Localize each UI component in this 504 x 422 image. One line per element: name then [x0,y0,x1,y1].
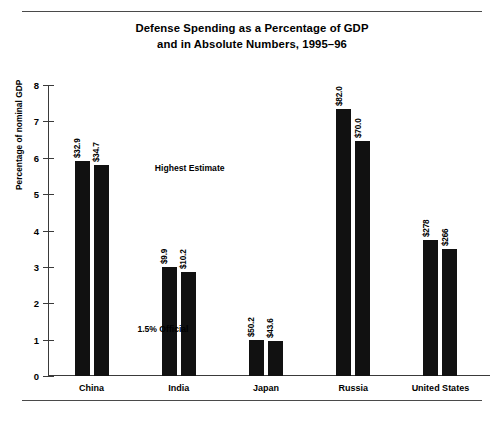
bar-value-label: $9.9 [160,249,169,264]
bar-slot: $43.6 [268,341,283,376]
y-tick-label-5: 5 [34,189,39,200]
category-label-russia: Russia [310,383,397,393]
bar-slot: $82.0 [336,109,351,376]
chart-title-line-2: and in Absolute Numbers, 1995–96 [0,36,504,52]
y-tick-label-0: 0 [34,371,39,382]
bar-value-label: $82.0 [335,86,344,106]
chart-title: Defense Spending as a Percentage of GDP … [0,20,504,52]
y-axis-title: Percentage of nominal GDP [14,80,24,190]
bar[interactable]: $50.2 [249,340,264,376]
top-divider-rule [22,11,482,12]
bar-slot: $34.7 [94,165,109,376]
bar-value-label: $43.6 [266,319,275,339]
y-tick-0 [43,376,54,377]
bars: $82.0$70.0 [310,85,397,376]
bar-slot: $266 [442,249,457,376]
plot-area: 012345678 $32.9$34.7China$9.9$10.2India$… [48,85,484,376]
y-tick-label-1: 1 [34,334,39,345]
bar-value-label: $278 [422,219,431,236]
y-tick-label-3: 3 [34,261,39,272]
chart-title-line-1: Defense Spending as a Percentage of GDP [0,20,504,36]
y-tick-label-7: 7 [34,116,39,127]
category-label-united-states: United States [397,383,484,393]
bar-value-label: $32.9 [73,139,82,159]
bar-slot: $50.2 [249,340,264,376]
annotation-highest-estimate: Highest Estimate [155,163,225,173]
bar[interactable]: $266 [442,249,457,376]
bottom-divider-rule [22,400,482,401]
bars: $32.9$34.7 [48,85,135,376]
bar-group-japan: $50.2$43.6Japan [222,85,309,376]
y-tick-label-8: 8 [34,80,39,91]
bar-group-china: $32.9$34.7China [48,85,135,376]
bar-value-label: $34.7 [92,143,101,163]
bar[interactable]: $82.0 [336,109,351,376]
y-tick-label-2: 2 [34,298,39,309]
bar[interactable]: $34.7 [94,165,109,376]
bar-value-label: $266 [441,228,450,245]
bar-group-russia: $82.0$70.0Russia [310,85,397,376]
bar[interactable]: $70.0 [355,141,370,376]
bar-value-label: $70.0 [354,119,363,139]
bars: $50.2$43.6 [222,85,309,376]
annotation-1-5-official: 1.5% Official [137,324,188,334]
bar-slot: $9.9 [162,267,177,376]
category-label-japan: Japan [222,383,309,393]
bar[interactable]: $278 [423,240,438,376]
bar-value-label: $50.2 [247,317,256,337]
bar-value-label: $10.2 [179,250,188,270]
bars: $278$266 [397,85,484,376]
bar[interactable]: $9.9 [162,267,177,376]
bar-slot: $70.0 [355,141,370,376]
bar-slot: $278 [423,240,438,376]
bar[interactable]: $32.9 [75,161,90,376]
y-tick-label-4: 4 [34,225,39,236]
bar-group-united-states: $278$266United States [397,85,484,376]
bar[interactable]: $43.6 [268,341,283,376]
figure-container: Defense Spending as a Percentage of GDP … [0,0,504,422]
category-label-china: China [48,383,135,393]
bar-slot: $32.9 [75,161,90,376]
category-label-india: India [135,383,222,393]
y-tick-label-6: 6 [34,152,39,163]
